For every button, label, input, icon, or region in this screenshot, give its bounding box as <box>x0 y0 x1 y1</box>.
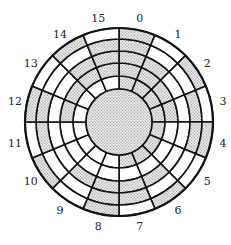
sector-label: 11 <box>8 137 22 150</box>
center-circle <box>86 89 152 155</box>
sector-label: 0 <box>136 12 143 25</box>
sector-label: 9 <box>57 204 64 217</box>
sector-label: 1 <box>174 28 181 41</box>
sector-label: 8 <box>95 220 102 233</box>
sector-label: 4 <box>219 137 226 150</box>
sector-label: 2 <box>204 57 211 70</box>
sector-label: 10 <box>24 175 38 188</box>
sector-label: 6 <box>174 204 181 217</box>
sector-label: 5 <box>204 175 211 188</box>
sector-label: 3 <box>219 95 226 108</box>
sector-label: 7 <box>136 220 143 233</box>
encoder-disk: 0123456789101112131415 <box>0 0 231 245</box>
sector-label: 13 <box>24 57 38 70</box>
sector-label: 12 <box>8 95 22 108</box>
sector-label: 15 <box>91 12 105 25</box>
sector-label: 14 <box>53 28 67 41</box>
